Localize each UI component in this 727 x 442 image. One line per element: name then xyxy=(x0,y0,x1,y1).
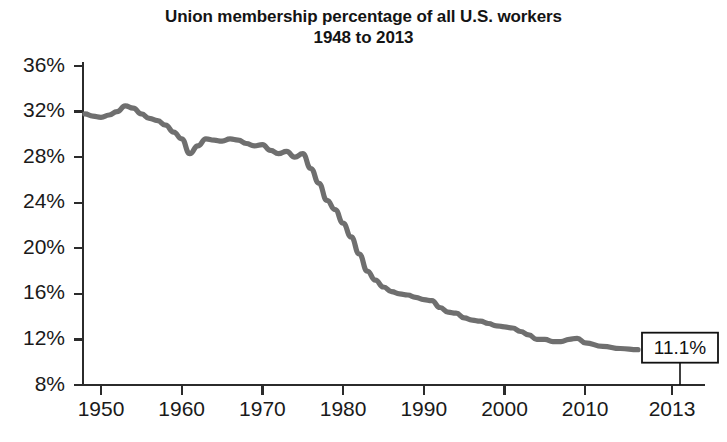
y-axis-tick-labels: 36%32%28%24%20%16%12%8% xyxy=(23,53,65,395)
chart-plot-area: 36%32%28%24%20%16%12%8% 1950196019701980… xyxy=(0,0,727,442)
y-tick-label: 36% xyxy=(23,53,65,76)
y-tick-label: 8% xyxy=(35,372,65,395)
y-tick-label: 28% xyxy=(23,144,65,167)
x-tick-label: 1950 xyxy=(78,397,125,420)
y-tick-label: 24% xyxy=(23,189,65,212)
callout-annotation: 11.1% xyxy=(642,333,718,385)
y-tick-label: 16% xyxy=(23,280,65,303)
x-tick-label: 1980 xyxy=(320,397,367,420)
callout-label: 11.1% xyxy=(654,337,707,358)
chart-page: Union membership percentage of all U.S. … xyxy=(0,0,727,442)
x-axis-tick-labels: 19501960197019801990200020102013 xyxy=(78,397,696,420)
y-tick-label: 20% xyxy=(23,235,65,258)
x-axis-tick-marks xyxy=(101,385,672,395)
x-tick-label: 1960 xyxy=(158,397,205,420)
line-chart-svg: 36%32%28%24%20%16%12%8% 1950196019701980… xyxy=(0,0,727,442)
y-tick-label: 12% xyxy=(23,326,65,349)
y-axis-tick-marks xyxy=(74,66,83,385)
x-tick-label: 1970 xyxy=(239,397,286,420)
x-tick-label: 2000 xyxy=(481,397,528,420)
x-tick-label: 2013 xyxy=(649,397,696,420)
y-tick-label: 32% xyxy=(23,98,65,121)
x-tick-label: 2010 xyxy=(562,397,609,420)
x-tick-label: 1990 xyxy=(400,397,447,420)
union-membership-line xyxy=(85,106,638,350)
